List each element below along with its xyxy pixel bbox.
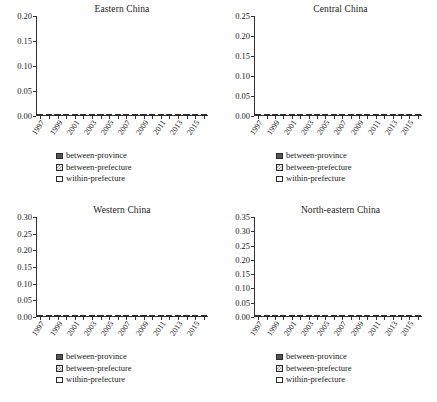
legend-swatch-within-prefecture — [276, 176, 283, 183]
x-axis-labels: 1997199920012003200520072009201120132015 — [36, 317, 208, 351]
x-tick-label: 2015 — [400, 320, 416, 338]
x-tick-label: 1999 — [266, 119, 282, 137]
x-tick-label: 2007 — [117, 320, 133, 338]
legend: between-provincebetween-prefecturewithin… — [56, 150, 132, 185]
x-tick-label: 2003 — [299, 119, 315, 137]
plot-area: 0.000.050.100.150.200.250.30199719992001… — [36, 217, 208, 317]
panel-central-china: Central China0.000.050.100.150.200.25199… — [218, 0, 437, 201]
legend-swatch-within-prefecture — [276, 377, 283, 384]
legend-swatch-between-prefecture — [276, 365, 283, 372]
x-tick-label: 2001 — [283, 119, 299, 137]
x-tick-label: 2007 — [117, 119, 133, 137]
x-tick-label: 2007 — [333, 119, 349, 137]
legend-swatch-between-province — [276, 153, 283, 160]
bar-group — [254, 16, 422, 116]
x-tick-label: 2001 — [66, 119, 82, 137]
legend-label: between-province — [66, 150, 127, 162]
legend-label: between-province — [286, 351, 347, 363]
x-tick-label: 2007 — [333, 320, 349, 338]
x-tick-label: 2015 — [400, 119, 416, 137]
panel-north-eastern-china: North-eastern China0.000.050.100.150.200… — [218, 201, 437, 402]
x-tick-label: 1999 — [48, 320, 64, 338]
legend-item-between-prefecture: between-prefecture — [276, 162, 352, 174]
x-tick-label: 1999 — [48, 119, 64, 137]
legend-swatch-between-province — [276, 354, 283, 361]
x-axis-labels: 1997199920012003200520072009201120132015 — [36, 116, 208, 150]
legend-item-between-province: between-province — [56, 150, 132, 162]
legend-label: within-prefecture — [286, 173, 345, 185]
legend-swatch-between-prefecture — [56, 365, 63, 372]
legend-item-within-prefecture: within-prefecture — [276, 374, 352, 386]
plot-area: 0.000.050.100.150.2019971999200120032005… — [36, 16, 208, 116]
legend-label: between-prefecture — [66, 363, 132, 375]
legend: between-provincebetween-prefecturewithin… — [276, 351, 352, 386]
legend-item-between-province: between-province — [276, 150, 352, 162]
legend-swatch-between-prefecture — [56, 164, 63, 171]
x-tick-label: 2003 — [299, 320, 315, 338]
bar-group — [254, 217, 422, 317]
legend-item-between-province: between-province — [56, 351, 132, 363]
legend-swatch-within-prefecture — [56, 377, 63, 384]
x-tick-label: 2015 — [186, 320, 202, 338]
x-tick-label: 2011 — [152, 119, 168, 136]
legend-item-between-prefecture: between-prefecture — [56, 162, 132, 174]
legend-item-within-prefecture: within-prefecture — [56, 374, 132, 386]
x-tick-label: 2011 — [367, 119, 383, 136]
legend-label: within-prefecture — [66, 173, 125, 185]
plot-area: 0.000.050.100.150.200.251997199920012003… — [254, 16, 422, 116]
legend-item-between-province: between-province — [276, 351, 352, 363]
bar-group — [36, 16, 208, 116]
x-tick-label: 2001 — [283, 320, 299, 338]
x-tick-label: 1999 — [266, 320, 282, 338]
x-tick-label: 2005 — [316, 119, 332, 137]
legend: between-provincebetween-prefecturewithin… — [56, 351, 132, 386]
legend-item-between-prefecture: between-prefecture — [56, 363, 132, 375]
x-tick-label: 2009 — [134, 320, 150, 338]
x-tick-label: 2009 — [350, 320, 366, 338]
figure-stacked-bar-grid: Eastern China0.000.050.100.150.201997199… — [0, 0, 437, 402]
x-tick-label: 2013 — [383, 320, 399, 338]
x-axis-labels: 1997199920012003200520072009201120132015 — [254, 317, 422, 351]
bar-group — [36, 217, 208, 317]
legend-label: within-prefecture — [66, 374, 125, 386]
panel-eastern-china: Eastern China0.000.050.100.150.201997199… — [0, 0, 218, 201]
legend: between-provincebetween-prefecturewithin… — [276, 150, 352, 185]
plot-area: 0.000.050.100.150.200.250.300.3519971999… — [254, 217, 422, 317]
x-tick-label: 2003 — [83, 320, 99, 338]
x-tick-label: 2011 — [367, 320, 383, 337]
x-tick-label: 2009 — [134, 119, 150, 137]
x-tick-label: 2009 — [350, 119, 366, 137]
legend-item-between-prefecture: between-prefecture — [276, 363, 352, 375]
legend-label: between-prefecture — [66, 162, 132, 174]
x-tick-label: 1997 — [249, 320, 265, 338]
x-tick-label: 2005 — [316, 320, 332, 338]
legend-label: within-prefecture — [286, 374, 345, 386]
x-tick-label: 2003 — [83, 119, 99, 137]
legend-label: between-province — [66, 351, 127, 363]
x-tick-label: 2015 — [186, 119, 202, 137]
x-tick-label: 2013 — [169, 119, 185, 137]
legend-item-within-prefecture: within-prefecture — [276, 173, 352, 185]
legend-swatch-between-prefecture — [276, 164, 283, 171]
x-tick-label: 1997 — [31, 119, 47, 137]
legend-swatch-within-prefecture — [56, 176, 63, 183]
x-axis-labels: 1997199920012003200520072009201120132015 — [254, 116, 422, 150]
x-tick-label: 1997 — [249, 119, 265, 137]
legend-swatch-between-province — [56, 354, 63, 361]
x-tick-label: 2005 — [100, 320, 116, 338]
legend-label: between-prefecture — [286, 162, 352, 174]
x-tick-label: 2011 — [152, 320, 168, 337]
legend-label: between-prefecture — [286, 363, 352, 375]
x-tick-label: 2013 — [169, 320, 185, 338]
legend-item-within-prefecture: within-prefecture — [56, 173, 132, 185]
x-tick-label: 2005 — [100, 119, 116, 137]
x-tick-label: 2001 — [66, 320, 82, 338]
panel-western-china: Western China0.000.050.100.150.200.250.3… — [0, 201, 218, 402]
x-tick-label: 1997 — [31, 320, 47, 338]
legend-label: between-province — [286, 150, 347, 162]
x-tick-label: 2013 — [383, 119, 399, 137]
legend-swatch-between-province — [56, 153, 63, 160]
